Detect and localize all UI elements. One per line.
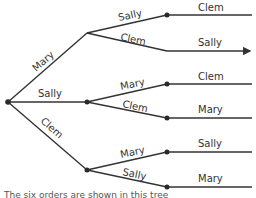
node-leaf xyxy=(165,116,170,121)
node-clem xyxy=(85,168,90,173)
root-node xyxy=(5,99,11,105)
label-mary: Mary xyxy=(30,49,56,74)
label-sally: Sally xyxy=(38,88,62,99)
node-sally xyxy=(85,100,90,105)
leaf-label: Mary xyxy=(198,104,223,115)
edge-root-clem xyxy=(8,102,87,170)
leaf-label: Sally xyxy=(198,138,222,149)
label-edge: Sally xyxy=(122,166,148,182)
leaf-label: Sally xyxy=(198,37,222,48)
tree-diagram: Mary Sally Clem Sally Clem Mary Clem Mar… xyxy=(0,0,256,198)
leaf-label: Clem xyxy=(198,71,224,82)
label-clem: Clem xyxy=(39,115,66,140)
node-leaf xyxy=(165,150,170,155)
node-leaf xyxy=(165,13,170,18)
node-leaf xyxy=(165,82,170,87)
caption: The six orders are shown in this tree xyxy=(4,190,168,198)
leaf-label: Mary xyxy=(198,173,223,184)
label-edge: Clem xyxy=(120,31,147,47)
leaf-label: Clem xyxy=(198,2,224,13)
node-leaf xyxy=(165,185,170,190)
